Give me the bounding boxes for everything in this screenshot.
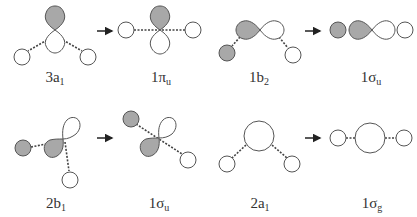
s-orbital-filled [123,111,139,127]
orbital-1b2-bent [219,21,301,63]
p-lobe-empty [260,21,284,39]
s-orbital-empty [284,156,300,172]
label-subscript: u [164,202,169,213]
orbital-3a1-bent [14,6,96,65]
s-orbital-filled [330,22,346,38]
p-lobe-filled [140,138,159,156]
orbital-1sigma-u-linear [330,21,413,39]
s-orbital-empty [330,130,346,146]
label-1sigma-u-bottom: 1σu [149,196,170,213]
s-orbital-empty [14,49,30,65]
label-main: 1σ [149,195,165,211]
s-orbital-empty-large [355,123,385,153]
bond-line [28,40,47,51]
p-lobe-empty [372,21,395,39]
bond-line [232,145,246,158]
label-subscript: 1 [61,202,66,213]
bond-line [65,142,69,171]
s-orbital-empty [118,22,134,38]
label-2a1: 2a1 [250,196,269,213]
label-subscript: u [166,76,171,87]
s-orbital-filled [219,45,235,61]
s-orbital-empty-large [244,121,274,151]
bond-line [279,37,288,48]
label-main: 2a [250,195,264,211]
label-main: 1b [249,69,264,85]
s-orbital-empty [62,172,78,188]
orbital-1sigma-u-rotated [123,111,196,168]
s-orbital-empty [219,156,235,172]
label-main: 2b [46,195,61,211]
orbital-1pi-u-linear [118,6,201,54]
p-lobe-empty [150,30,169,54]
label-main: 1σ [361,69,377,85]
label-2b1: 2b1 [46,196,66,213]
label-main: 1σ [362,195,378,211]
bond-line [272,145,287,158]
p-lobe-filled [150,6,169,30]
label-1b2: 1b2 [249,70,269,87]
s-orbital-empty [397,22,413,38]
label-1sigma-u-top: 1σu [361,70,382,87]
label-3a1: 3a1 [45,70,64,87]
label-subscript: g [377,202,382,213]
p-lobe-empty [159,117,176,138]
orbital-2a1-bent [219,121,300,172]
p-lobe-filled [349,21,372,39]
s-orbital-empty [185,22,201,38]
p-lobe-empty [63,117,80,139]
orbital-1sigma-g-linear [330,123,412,153]
label-1pi-u: 1πu [151,70,171,87]
label-1sigma-g: 1σg [362,196,383,213]
s-orbital-empty [180,152,196,168]
p-lobe-filled [45,6,64,30]
label-subscript: 2 [264,76,269,87]
label-subscript: u [376,76,381,87]
label-main: 3a [45,69,59,85]
label-subscript: 1 [60,76,65,87]
s-orbital-filled [15,140,31,156]
p-lobe-empty [45,30,64,53]
label-subscript: 1 [265,202,270,213]
label-main: 1π [151,69,166,85]
orbital-2b1-bent [15,117,80,188]
p-lobe-filled [44,139,63,157]
bond-line [31,144,46,147]
bond-line [232,37,240,46]
bond-line [63,40,82,51]
p-lobe-filled [236,21,260,39]
s-orbital-empty [285,47,301,63]
orbital-correlation-diagram: 3a1 1πu 1b2 1σu 2b1 1σu 2a1 1σg [0,0,417,217]
s-orbital-empty [80,49,96,65]
s-orbital-empty [396,130,412,146]
